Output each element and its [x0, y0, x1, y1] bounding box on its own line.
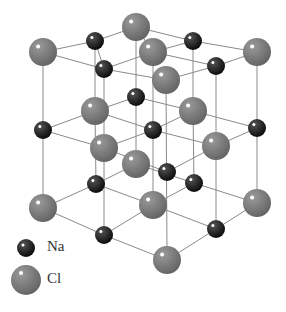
- na-atom: [158, 163, 176, 181]
- atom-highlight: [146, 197, 150, 201]
- cl-atom: [243, 38, 271, 66]
- atom-highlight: [148, 125, 151, 128]
- atom-highlight: [99, 230, 102, 233]
- atom-highlight: [36, 200, 40, 204]
- na-atom: [86, 32, 104, 50]
- atom-highlight: [146, 44, 150, 48]
- legend-cl-swatch: [11, 265, 41, 295]
- atom-highlight: [250, 195, 254, 199]
- atom-highlight: [131, 92, 134, 95]
- atom-highlight: [88, 103, 92, 107]
- atom-highlight: [91, 179, 94, 182]
- na-atom: [127, 88, 145, 106]
- na-atom: [248, 119, 266, 137]
- atom-highlight: [36, 44, 40, 48]
- legend-label-na: Na: [47, 238, 65, 255]
- atom-highlight: [211, 224, 214, 227]
- na-atom: [184, 32, 202, 50]
- na-atom: [95, 60, 113, 78]
- atom-highlight: [38, 125, 41, 128]
- na-atom: [207, 57, 225, 75]
- atom-highlight: [186, 103, 190, 107]
- atom-highlight: [189, 178, 192, 181]
- legend-label-cl: Cl: [47, 270, 61, 287]
- cl-atom: [202, 132, 230, 160]
- na-atom: [185, 174, 203, 192]
- atom-highlight: [99, 64, 102, 67]
- na-atom: [87, 175, 105, 193]
- cl-atom: [90, 134, 118, 162]
- atom-highlight: [160, 252, 164, 256]
- atom-highlight: [97, 140, 101, 144]
- cl-atom: [179, 97, 207, 125]
- atom-highlight: [188, 36, 191, 39]
- nacl-lattice-diagram: [0, 0, 286, 312]
- na-atom: [144, 121, 162, 139]
- legend: [11, 239, 41, 295]
- atom-highlight: [129, 156, 133, 160]
- cl-atom: [243, 189, 271, 217]
- atom-highlight: [90, 36, 93, 39]
- cl-atom: [81, 97, 109, 125]
- atoms: [29, 13, 271, 274]
- na-atom: [34, 121, 52, 139]
- cl-atom: [122, 150, 150, 178]
- cl-atom: [29, 194, 57, 222]
- cl-atom: [139, 38, 167, 66]
- na-atom: [207, 220, 225, 238]
- atom-highlight: [211, 61, 214, 64]
- atom-highlight: [209, 138, 213, 142]
- atom-highlight: [159, 72, 163, 76]
- legend-na-swatch: [17, 239, 35, 257]
- na-atom: [95, 226, 113, 244]
- atom-highlight: [162, 167, 165, 170]
- cl-atom: [139, 191, 167, 219]
- atom-highlight: [250, 44, 254, 48]
- cl-atom: [122, 13, 150, 41]
- cl-atom: [152, 66, 180, 94]
- cl-atom: [153, 246, 181, 274]
- atom-highlight: [252, 123, 255, 126]
- atom-highlight: [129, 19, 133, 23]
- cl-atom: [29, 38, 57, 66]
